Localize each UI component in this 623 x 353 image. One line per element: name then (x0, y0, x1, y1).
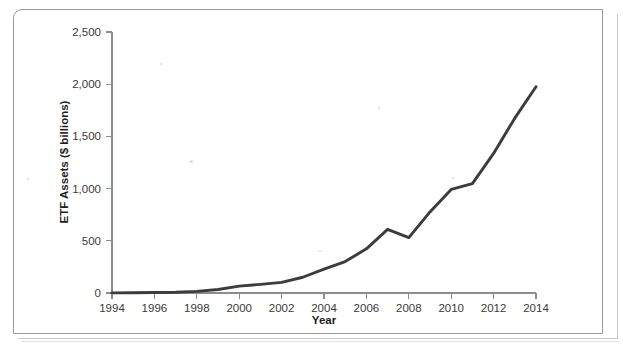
x-tick-label: 2008 (396, 302, 422, 314)
x-tick-label: 1996 (142, 302, 168, 314)
x-tick-label: 1998 (184, 302, 210, 314)
x-tick-marks (112, 293, 536, 299)
x-tick-label: 2004 (311, 302, 337, 314)
y-axis-title: ETF Assets ($ billions) (58, 101, 70, 224)
y-tick-label: 500 (55, 235, 101, 247)
figure-page: 0 500 1,000 1,500 2,000 2,500 1994 1996 … (0, 0, 623, 353)
x-tick-label: 2000 (226, 302, 252, 314)
y-tick-label: 2,500 (55, 26, 101, 38)
chart-plot (0, 0, 623, 353)
x-tick-label: 1994 (99, 302, 125, 314)
y-tick-marks (106, 32, 112, 293)
data-series-line (112, 87, 536, 293)
x-tick-label: 2012 (481, 302, 507, 314)
x-tick-label: 2002 (269, 302, 295, 314)
x-tick-label: 2010 (438, 302, 464, 314)
x-tick-label: 2014 (523, 302, 549, 314)
y-tick-label: 0 (55, 287, 101, 299)
y-tick-label: 2,000 (55, 78, 101, 90)
x-tick-label: 2006 (354, 302, 380, 314)
x-axis-title: Year (312, 314, 336, 326)
